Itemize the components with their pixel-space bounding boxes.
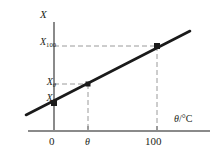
chart-plot-area [0,0,217,161]
x-tick-label-0: 0 [49,136,55,147]
x-axis-title-unit: /°C [179,113,192,124]
y-tick-label-x100-subscript: 100 [46,41,56,48]
x-tick-label-100: 100 [145,136,162,147]
y-tick-label-xtheta-subscript: θ [53,81,56,88]
x-axis-title: θ/°C [174,114,192,124]
y-axis-title: X [40,9,47,20]
x-tick-label-theta: θ [85,137,90,147]
y-tick-label-x0: X0 [47,93,56,104]
xtheta-data-point [86,82,91,87]
x100-data-point [154,43,160,49]
y-tick-label-x100: X100 [40,37,56,48]
y-tick-label-x0-subscript: 0 [53,97,56,104]
y-tick-label-xtheta: Xθ [47,77,56,88]
thermometric-property-chart: X θ/°C X100 Xθ X0 0 θ 100 [0,0,217,161]
